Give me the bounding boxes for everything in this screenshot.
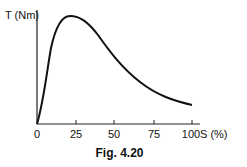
x-axis-label: S (%): [200, 128, 228, 140]
figure-caption: Fig. 4.20: [0, 146, 243, 160]
x-tick-100: 100: [182, 128, 200, 140]
x-tick-0: 0: [34, 128, 40, 140]
x-tick-25: 25: [70, 128, 82, 140]
chart-plot: [0, 0, 247, 167]
x-tick-75: 75: [148, 128, 160, 140]
y-axis-label: T (Nm): [5, 9, 39, 21]
torque-slip-curve: [37, 16, 192, 124]
x-tick-50: 50: [108, 128, 120, 140]
